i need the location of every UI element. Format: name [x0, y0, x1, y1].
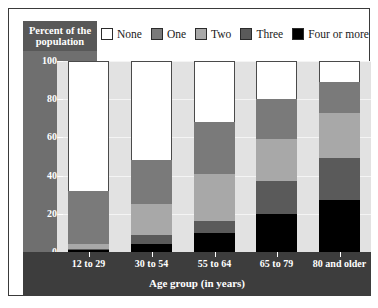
bar-3-segment-four-or-more — [194, 233, 235, 252]
bar-5-segment-three — [319, 158, 360, 200]
x-tick-label-5: 80 and older — [306, 258, 374, 269]
bar-2-segment-one — [131, 160, 172, 204]
bar-4-segment-two — [256, 139, 297, 181]
y-tick-mark-40 — [58, 176, 63, 177]
bar-3-segment-two — [194, 174, 235, 222]
x-tick-label-4: 65 to 79 — [243, 258, 311, 269]
legend-swatch-none — [101, 28, 113, 40]
bar-3-segment-none — [194, 61, 235, 122]
y-axis-title-box: Percent of the population — [23, 21, 97, 51]
legend-swatch-four-or-more — [292, 28, 304, 40]
legend-label-four-or-more: Four or more — [308, 28, 369, 40]
x-tick-mark-4 — [277, 252, 278, 257]
x-axis-title: Age group (in years) — [23, 277, 371, 289]
y-tick-mark-80 — [58, 99, 63, 100]
bar-1[interactable] — [68, 61, 109, 252]
bar-5-segment-two — [319, 113, 360, 159]
chart-legend: None One Two Three Four or more — [101, 21, 373, 47]
legend-label-two: Two — [211, 28, 231, 40]
bar-2[interactable] — [131, 61, 172, 252]
x-tick-mark-5 — [340, 252, 341, 257]
y-axis-title: Percent of the population — [23, 25, 97, 48]
legend-swatch-three — [240, 28, 252, 40]
legend-label-one: One — [167, 28, 186, 40]
x-tick-label-2: 30 to 54 — [118, 258, 186, 269]
bar-4-segment-four-or-more — [256, 214, 297, 252]
legend-item-one[interactable]: One — [151, 28, 186, 40]
legend-swatch-two — [195, 28, 207, 40]
x-tick-label-1: 12 to 29 — [55, 258, 123, 269]
bar-4-segment-none — [256, 61, 297, 99]
legend-label-three: Three — [256, 28, 283, 40]
bar-5-segment-four-or-more — [319, 200, 360, 252]
x-tick-mark-3 — [215, 252, 216, 257]
y-tick-mark-20 — [58, 214, 63, 215]
plot-area — [57, 61, 371, 252]
legend-label-none: None — [117, 28, 142, 40]
bar-2-segment-four-or-more — [131, 244, 172, 252]
legend-item-none[interactable]: None — [101, 28, 142, 40]
y-tick-label-20: 20 — [23, 209, 57, 219]
x-tick-label-3: 55 to 64 — [181, 258, 249, 269]
bar-3-segment-three — [194, 221, 235, 232]
bar-3-segment-one — [194, 122, 235, 174]
y-tick-label-100: 100 — [23, 56, 57, 66]
legend-item-three[interactable]: Three — [240, 28, 283, 40]
y-tick-mark-60 — [58, 137, 63, 138]
bar-4-segment-one — [256, 99, 297, 139]
bar-5-segment-none — [319, 61, 360, 82]
legend-item-four-or-more[interactable]: Four or more — [292, 28, 369, 40]
bar-2-segment-three — [131, 235, 172, 245]
bar-5[interactable] — [319, 61, 360, 252]
legend-item-two[interactable]: Two — [195, 28, 231, 40]
bar-5-segment-one — [319, 82, 360, 113]
x-tick-mark-2 — [152, 252, 153, 257]
x-tick-mark-1 — [89, 252, 90, 257]
y-tick-mark-100 — [58, 61, 63, 62]
y-tick-label-60: 60 — [23, 132, 57, 142]
legend-swatch-one — [151, 28, 163, 40]
bar-4-segment-three — [256, 181, 297, 213]
bar-2-segment-none — [131, 61, 172, 160]
y-tick-label-80: 80 — [23, 94, 57, 104]
bar-1-segment-one — [68, 191, 109, 244]
chart-page: None One Two Three Four or more Percent … — [0, 0, 378, 308]
y-tick-label-40: 40 — [23, 171, 57, 181]
bar-3[interactable] — [194, 61, 235, 252]
bar-2-segment-two — [131, 204, 172, 235]
bar-4[interactable] — [256, 61, 297, 252]
chart-frame: None One Two Three Four or more Percent … — [8, 8, 370, 296]
bar-1-segment-none — [68, 61, 109, 191]
